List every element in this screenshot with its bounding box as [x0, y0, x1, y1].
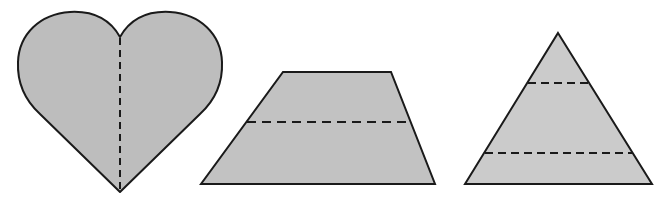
triangle-outline: [465, 33, 652, 184]
trapezoid-shape: [201, 72, 435, 184]
heart-shape: [18, 12, 222, 192]
shapes-diagram: [0, 0, 664, 212]
trapezoid-outline: [201, 72, 435, 184]
triangle-shape: [465, 33, 652, 184]
